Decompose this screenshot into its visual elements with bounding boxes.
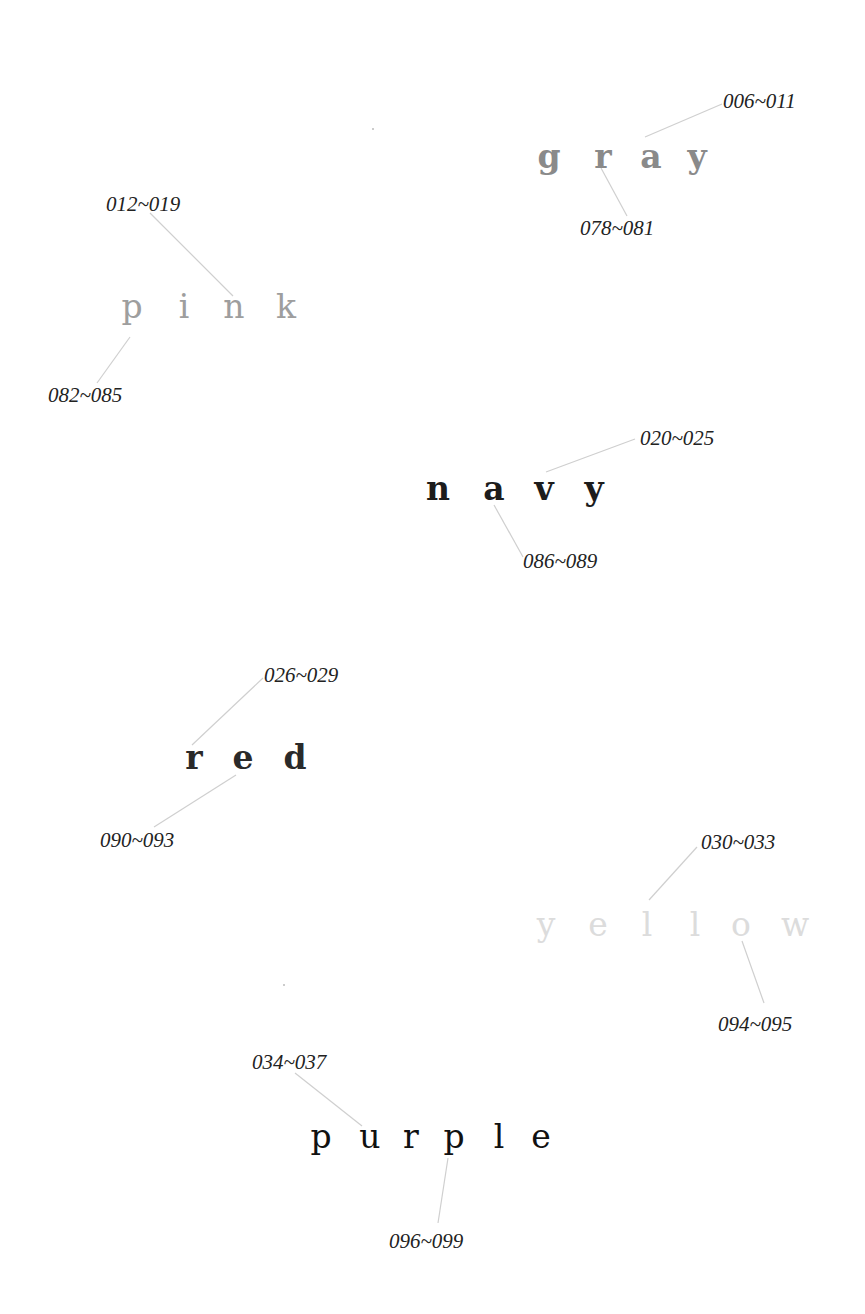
range-label-gray-0: 006~011: [723, 91, 796, 112]
letter-navy-2: v: [534, 472, 553, 505]
range-label-navy-1: 086~089: [523, 551, 597, 572]
leader-line-navy-0: [546, 439, 635, 472]
leader-line-red-1: [154, 775, 236, 827]
letter-gray-1: r: [594, 140, 611, 173]
leader-line-yellow-1: [742, 941, 764, 1003]
range-label-navy-0: 020~025: [640, 428, 714, 449]
range-label-purple-0: 034~037: [252, 1052, 326, 1073]
range-label-red-1: 090~093: [100, 830, 174, 851]
letter-yellow-0: y: [537, 908, 556, 941]
leader-line-gray-0: [645, 104, 722, 137]
letter-yellow-3: l: [690, 908, 701, 941]
letter-purple-4: l: [494, 1120, 505, 1153]
letter-red-1: e: [233, 741, 254, 774]
letter-pink-0: p: [121, 290, 142, 323]
range-label-gray-1: 078~081: [580, 218, 654, 239]
range-label-red-0: 026~029: [264, 665, 338, 686]
letter-gray-3: y: [687, 140, 706, 173]
letter-pink-3: k: [276, 290, 296, 323]
letter-red-0: r: [185, 741, 202, 774]
letter-purple-1: u: [359, 1120, 380, 1153]
leader-line-red-0: [192, 678, 263, 745]
color-word-diagram: gray006~011078~081pink012~019082~085navy…: [0, 0, 865, 1314]
speck-mark: [283, 984, 285, 986]
range-label-purple-1: 096~099: [389, 1231, 463, 1252]
letter-navy-1: a: [483, 472, 504, 505]
speck-mark: [372, 128, 374, 130]
range-label-yellow-0: 030~033: [701, 832, 775, 853]
letter-navy-0: n: [426, 472, 450, 505]
letter-gray-2: a: [640, 140, 661, 173]
range-label-yellow-1: 094~095: [718, 1014, 792, 1035]
leader-line-yellow-0: [649, 847, 697, 900]
leader-line-pink-1: [97, 337, 130, 383]
letter-yellow-4: o: [731, 908, 751, 941]
letter-red-2: d: [283, 741, 306, 774]
letter-yellow-1: e: [588, 908, 608, 941]
letter-purple-3: p: [443, 1120, 464, 1153]
letter-yellow-2: l: [642, 908, 653, 941]
letter-purple-5: e: [531, 1120, 551, 1153]
range-label-pink-1: 082~085: [48, 385, 122, 406]
letter-purple-2: r: [403, 1120, 419, 1153]
letter-pink-2: n: [223, 290, 244, 323]
letter-gray-0: g: [537, 140, 560, 173]
letter-yellow-5: w: [781, 908, 809, 941]
leader-line-navy-1: [494, 505, 523, 557]
letter-purple-0: p: [310, 1120, 331, 1153]
range-label-pink-0: 012~019: [106, 194, 180, 215]
leader-line-purple-1: [438, 1158, 448, 1223]
letter-navy-3: y: [584, 472, 603, 505]
letter-pink-1: i: [179, 290, 190, 323]
leader-line-pink-0: [150, 213, 233, 296]
